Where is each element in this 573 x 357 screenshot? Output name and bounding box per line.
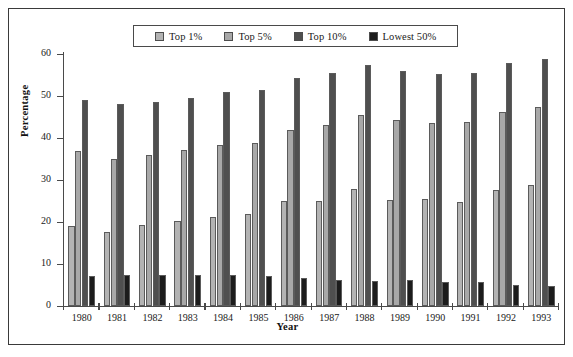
legend-swatch-icon bbox=[155, 32, 164, 41]
bar bbox=[528, 185, 534, 306]
bar bbox=[159, 275, 165, 307]
chart-frame: Top 1%Top 5%Top 10%Lowest 50% Percentage… bbox=[8, 8, 565, 345]
legend-swatch-icon bbox=[224, 32, 233, 41]
bar bbox=[153, 102, 159, 306]
bar bbox=[316, 201, 322, 306]
bar bbox=[195, 275, 201, 307]
legend-swatch-icon bbox=[294, 32, 303, 41]
bar bbox=[506, 63, 512, 306]
bar bbox=[323, 125, 329, 306]
bar bbox=[442, 282, 448, 306]
bar bbox=[400, 71, 406, 306]
bar bbox=[217, 145, 223, 306]
bar bbox=[535, 107, 541, 306]
bar bbox=[542, 59, 548, 306]
bar bbox=[387, 200, 393, 306]
bar bbox=[457, 202, 463, 306]
bar bbox=[548, 286, 554, 306]
legend-item-label: Top 5% bbox=[238, 31, 271, 42]
legend-item[interactable]: Lowest 50% bbox=[369, 31, 437, 42]
bar bbox=[351, 189, 357, 306]
bar bbox=[252, 143, 258, 306]
legend-item-label: Lowest 50% bbox=[383, 31, 437, 42]
bar bbox=[407, 280, 413, 306]
bar bbox=[266, 276, 272, 306]
bar bbox=[499, 112, 505, 306]
bar bbox=[245, 214, 251, 306]
bar bbox=[230, 275, 236, 307]
bar bbox=[513, 285, 519, 306]
bars-layer bbox=[9, 9, 566, 346]
bar bbox=[493, 190, 499, 306]
bar bbox=[111, 159, 117, 306]
bar bbox=[117, 104, 123, 306]
bar bbox=[422, 199, 428, 306]
bar bbox=[104, 232, 110, 306]
legend-item[interactable]: Top 10% bbox=[294, 31, 347, 42]
bar bbox=[393, 120, 399, 306]
bar bbox=[287, 130, 293, 306]
legend-item-label: Top 10% bbox=[308, 31, 347, 42]
bar bbox=[174, 221, 180, 306]
legend-item[interactable]: Top 1% bbox=[155, 31, 202, 42]
legend-swatch-icon bbox=[369, 32, 378, 41]
bar bbox=[478, 282, 484, 306]
bar bbox=[188, 98, 194, 306]
bar bbox=[281, 201, 287, 306]
legend-item[interactable]: Top 5% bbox=[224, 31, 271, 42]
bar bbox=[436, 74, 442, 306]
bar bbox=[68, 226, 74, 306]
bar bbox=[372, 281, 378, 306]
bar bbox=[82, 100, 88, 306]
bar bbox=[294, 78, 300, 306]
bar bbox=[336, 280, 342, 306]
bar bbox=[464, 122, 470, 306]
bar bbox=[75, 151, 81, 306]
bar bbox=[124, 275, 130, 306]
bar bbox=[301, 278, 307, 306]
bar bbox=[365, 65, 371, 306]
bar bbox=[358, 115, 364, 306]
bar bbox=[471, 73, 477, 306]
bar bbox=[223, 92, 229, 306]
bar bbox=[329, 73, 335, 306]
bar bbox=[89, 276, 95, 306]
bar bbox=[259, 90, 265, 306]
chart-figure: Top 1%Top 5%Top 10%Lowest 50% Percentage… bbox=[0, 0, 573, 357]
bar bbox=[429, 123, 435, 306]
plot-area: Percentage Year 0102030405060 1980198119… bbox=[9, 9, 566, 346]
bar bbox=[146, 155, 152, 306]
bar bbox=[210, 217, 216, 306]
bar bbox=[181, 150, 187, 306]
chart-legend: Top 1%Top 5%Top 10%Lowest 50% bbox=[133, 25, 458, 47]
legend-item-label: Top 1% bbox=[169, 31, 202, 42]
bar bbox=[139, 225, 145, 306]
